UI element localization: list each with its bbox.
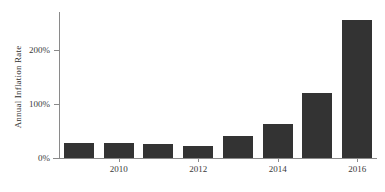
x-tick-label: 2014 xyxy=(269,164,287,174)
x-tick-mark xyxy=(357,158,358,162)
y-tick-label: 200% xyxy=(29,45,50,55)
bar xyxy=(302,93,332,158)
x-tick-mark xyxy=(119,158,120,162)
plot-area: 0%100%200% 2010201220142016 xyxy=(59,12,377,158)
y-tick-mark xyxy=(54,158,59,159)
bar xyxy=(342,20,372,158)
bar xyxy=(64,143,94,158)
x-axis-line xyxy=(53,158,377,159)
bar xyxy=(183,146,213,158)
x-tick-label: 2012 xyxy=(189,164,207,174)
bar xyxy=(223,136,253,158)
y-axis-title: Annual Inflation Rate xyxy=(13,17,23,157)
y-tick-mark xyxy=(54,104,59,105)
bar-chart: Annual Inflation Rate 0%100%200% 2010201… xyxy=(0,0,385,192)
bar xyxy=(263,124,293,158)
x-tick-mark xyxy=(278,158,279,162)
y-tick-label: 100% xyxy=(29,99,50,109)
bar xyxy=(104,143,134,158)
bar xyxy=(143,144,173,158)
y-axis-line xyxy=(59,12,60,158)
y-tick-label: 0% xyxy=(38,153,50,163)
x-tick-mark xyxy=(198,158,199,162)
y-tick-mark xyxy=(54,50,59,51)
x-tick-label: 2010 xyxy=(110,164,128,174)
x-tick-label: 2016 xyxy=(348,164,366,174)
